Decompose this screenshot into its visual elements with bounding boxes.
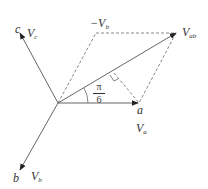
- right-angle-marker: [110, 75, 118, 81]
- neg-vb-dashed-vector: [58, 33, 96, 103]
- angle-arc: [84, 88, 88, 103]
- label-c: c: [15, 23, 20, 35]
- label-va: Va: [136, 122, 147, 136]
- label-vb: Vb: [31, 170, 42, 184]
- label-vc: Vc: [27, 27, 37, 41]
- label-vab: Vab: [182, 26, 196, 40]
- label-neg-vb: −Vb: [90, 17, 109, 31]
- vab-vector: [58, 33, 176, 103]
- vb-vector: [20, 103, 58, 170]
- vc-vector: [20, 33, 58, 103]
- label-b: b: [13, 172, 19, 184]
- label-a: a: [137, 104, 143, 116]
- perpendicular-dashed-line: [114, 73, 139, 103]
- angle-label-pi-over-6: π 6: [93, 82, 105, 105]
